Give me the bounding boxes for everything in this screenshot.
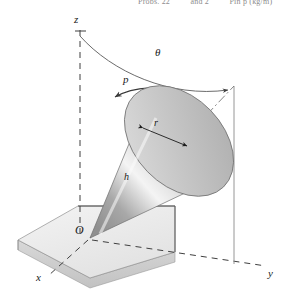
theta-angle-label: θ: [155, 47, 160, 58]
origin-label: O: [75, 224, 84, 236]
z-axis-label: z: [74, 14, 78, 25]
height-label: h: [124, 172, 129, 182]
figure-canvas: [0, 0, 294, 302]
cone-spherical-coordinates-figure: Probs. 22 and 2 Pin p (kg/m): [0, 0, 294, 302]
y-axis-label: y: [268, 268, 273, 279]
radius-label: r: [154, 118, 158, 128]
spin-rate-label: p: [123, 74, 129, 85]
ground-plate: [18, 206, 175, 288]
theta-angle-arc: [80, 36, 228, 91]
x-axis-label: x: [36, 272, 41, 283]
